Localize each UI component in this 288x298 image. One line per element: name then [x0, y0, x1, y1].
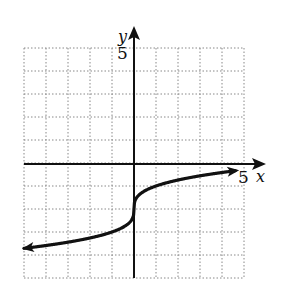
y-tick-label: 5	[117, 43, 128, 63]
graph: y 5 5 x	[0, 0, 288, 298]
x-tick-label: 5	[238, 167, 249, 187]
function-curve	[24, 171, 235, 249]
x-axis-label: x	[256, 167, 265, 186]
y-axis	[128, 26, 140, 278]
